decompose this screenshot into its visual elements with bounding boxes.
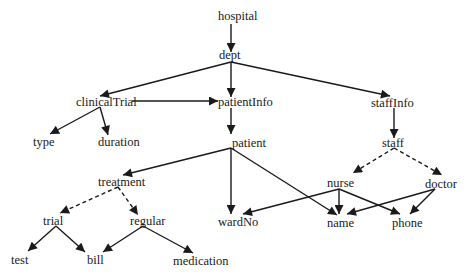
edge-regular-to-medication xyxy=(143,226,193,253)
node-bill: bill xyxy=(87,253,104,267)
edge-treatment-to-trial xyxy=(60,187,118,213)
edge-patient-to-treatment xyxy=(123,148,231,175)
node-trial: trial xyxy=(43,214,64,228)
node-name: name xyxy=(327,216,355,230)
edge-dept-to-staffInfo xyxy=(231,62,390,96)
edge-nurse-to-wardNo xyxy=(243,189,339,214)
node-regular: regular xyxy=(130,214,166,228)
nodes-layer: hospitaldeptclinicalTrialpatientInfostaf… xyxy=(11,9,458,268)
node-clinicalTrial: clinicalTrial xyxy=(76,95,137,109)
node-dept: dept xyxy=(219,48,241,62)
node-medication: medication xyxy=(173,254,229,268)
hospital-schema-diagram: hospitaldeptclinicalTrialpatientInfostaf… xyxy=(0,0,467,279)
edge-dept-to-clinicalTrial xyxy=(100,62,231,96)
node-staff: staff xyxy=(382,136,405,150)
node-treatment: treatment xyxy=(98,175,146,189)
node-test: test xyxy=(11,253,29,267)
node-wardNo: wardNo xyxy=(218,215,258,229)
node-hospital: hospital xyxy=(218,9,258,23)
node-phone: phone xyxy=(392,216,423,230)
edge-trial-to-bill xyxy=(56,226,85,252)
edge-patient-to-name xyxy=(231,148,337,215)
node-type: type xyxy=(33,135,55,149)
edge-staff-to-nurse xyxy=(353,148,394,173)
edge-clinicalTrial-to-duration xyxy=(100,107,108,135)
node-staffInfo: staffInfo xyxy=(371,96,414,110)
edge-staff-to-doctor xyxy=(394,148,442,175)
edge-clinicalTrial-to-type xyxy=(50,107,100,134)
node-doctor: doctor xyxy=(425,177,458,191)
edge-regular-to-bill xyxy=(103,226,143,252)
node-patientInfo: patientInfo xyxy=(218,95,273,109)
node-patient: patient xyxy=(232,136,267,150)
edge-trial-to-test xyxy=(28,226,56,251)
node-duration: duration xyxy=(98,135,140,149)
node-nurse: nurse xyxy=(327,176,355,190)
edge-treatment-to-regular xyxy=(118,187,138,215)
